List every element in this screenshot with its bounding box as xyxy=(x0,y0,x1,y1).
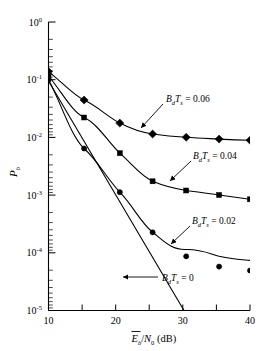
x-tick-label-10: 10 xyxy=(44,315,54,326)
x-axis-title: Eb/N0 (dB) xyxy=(131,332,177,346)
series-bdts-006 xyxy=(44,68,254,145)
y-axis-major-ticks xyxy=(49,22,56,311)
leader-arrow-002 xyxy=(171,226,190,244)
y-tick-label-1: 10-1 xyxy=(27,73,42,85)
y-axis-title: Pb xyxy=(7,166,21,178)
series-line-006 xyxy=(49,72,251,141)
annotation-label-006: BdTs = 0.06 xyxy=(166,94,210,106)
annotation-bdts-004: BdTs = 0.04 xyxy=(170,151,237,181)
x-axis-ticks xyxy=(49,305,251,311)
x-tick-labels: 10 20 30 40 xyxy=(44,315,256,326)
annotation-label-0: BdTs = 0 xyxy=(162,273,194,285)
x-tick-label-40: 40 xyxy=(245,315,255,326)
y-tick-label-5: 10-5 xyxy=(27,304,42,316)
annotation-label-004: BdTs = 0.04 xyxy=(193,151,237,163)
y-tick-label-0: 100 xyxy=(29,16,42,28)
y-tick-label-3: 10-3 xyxy=(27,189,42,201)
x-tick-label-30: 30 xyxy=(178,315,188,326)
annotation-bdts-006: BdTs = 0.06 xyxy=(141,94,210,128)
series-bdts-002 xyxy=(46,77,253,273)
y-tick-label-4: 10-4 xyxy=(27,246,43,258)
chart-svg: 100 10-1 10-2 10-3 10-4 10-5 10 20 30 40… xyxy=(0,0,270,351)
svg-text:Eb/N0 (dB): Eb/N0 (dB) xyxy=(131,333,177,346)
series-line-002 xyxy=(49,80,251,261)
y-tick-labels: 100 10-1 10-2 10-3 10-4 10-5 xyxy=(27,16,43,317)
leader-arrow-006 xyxy=(141,104,163,128)
annotation-bdts-002: BdTs = 0.02 xyxy=(171,216,236,244)
series-markers-006 xyxy=(44,68,254,145)
annotation-bdts-0: BdTs = 0 xyxy=(123,273,194,285)
y-tick-label-2: 10-2 xyxy=(27,131,42,143)
series-markers-002 xyxy=(46,77,253,273)
leader-arrow-004 xyxy=(170,161,191,181)
svg-text:Pb: Pb xyxy=(7,166,21,178)
x-tick-label-20: 20 xyxy=(111,315,121,326)
annotation-label-002: BdTs = 0.02 xyxy=(192,216,236,228)
chart-figure: 100 10-1 10-2 10-3 10-4 10-5 10 20 30 40… xyxy=(0,0,270,351)
